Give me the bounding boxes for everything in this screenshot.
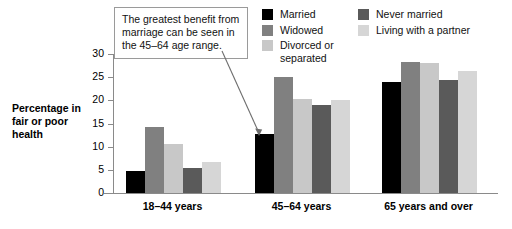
bar-group (382, 54, 477, 193)
bar[interactable] (458, 71, 477, 193)
y-axis-tick: 15 (108, 124, 113, 125)
y-axis-title: Percentage in fair or poor health (12, 102, 98, 141)
y-axis-tick: 30 (108, 54, 113, 55)
bar[interactable] (126, 171, 145, 193)
plot-area: 302520151050 18–44 years45–64 years65 ye… (113, 54, 498, 193)
legend-swatch-icon (262, 40, 273, 51)
legend-item[interactable]: Widowed (262, 24, 362, 37)
legend-item-label: Widowed (280, 24, 323, 37)
bar[interactable] (293, 99, 312, 193)
y-axis-tick-label: 25 (92, 70, 104, 82)
legend-item[interactable]: Living with a partner (358, 24, 506, 37)
bar[interactable] (183, 168, 202, 193)
y-axis-tick: 10 (108, 147, 113, 148)
legend-item[interactable]: Married (262, 8, 362, 21)
bar[interactable] (401, 62, 420, 193)
legend-column-2: Never marriedLiving with a partner (358, 8, 506, 39)
y-axis-tick-label: 0 (98, 186, 104, 198)
bar[interactable] (382, 82, 401, 193)
legend-item-label: Married (280, 8, 316, 21)
legend-item-label: Never married (376, 8, 443, 21)
legend-item-label: Living with a partner (376, 24, 470, 37)
y-axis-tick-label: 20 (92, 93, 104, 105)
bar[interactable] (145, 127, 164, 193)
y-axis-tick-label: 10 (92, 140, 104, 152)
y-axis-tick-label: 30 (92, 47, 104, 59)
legend-item[interactable]: Never married (358, 8, 506, 21)
x-axis-label: 18–44 years (105, 200, 240, 212)
y-axis-tick: 20 (108, 100, 113, 101)
legend-swatch-icon (358, 25, 369, 36)
chart-figure: MarriedWidowedDivorced or separated Neve… (0, 0, 512, 229)
y-axis-tick: 0 (108, 193, 113, 194)
bar-groups (114, 54, 498, 193)
legend-swatch-icon (358, 9, 369, 20)
bar[interactable] (202, 162, 221, 193)
legend-swatch-icon (262, 9, 273, 20)
bar-group (255, 54, 350, 193)
x-axis-line (104, 193, 498, 194)
y-axis-tick-label: 15 (92, 117, 104, 129)
bar[interactable] (255, 134, 274, 193)
bar[interactable] (439, 80, 458, 193)
y-axis-tick-label: 5 (98, 163, 104, 175)
y-axis-tick: 5 (108, 170, 113, 171)
x-axis-label: 45–64 years (234, 200, 369, 212)
bar[interactable] (274, 77, 293, 193)
bar-group (126, 54, 221, 193)
bar[interactable] (420, 63, 439, 193)
x-axis-label: 65 years and over (361, 200, 496, 212)
annotation-callout: The greatest benefit from marriage can b… (114, 7, 248, 59)
bar[interactable] (331, 100, 350, 193)
y-axis-tick: 25 (108, 77, 113, 78)
legend-swatch-icon (262, 25, 273, 36)
bar[interactable] (164, 144, 183, 193)
bar[interactable] (312, 105, 331, 193)
